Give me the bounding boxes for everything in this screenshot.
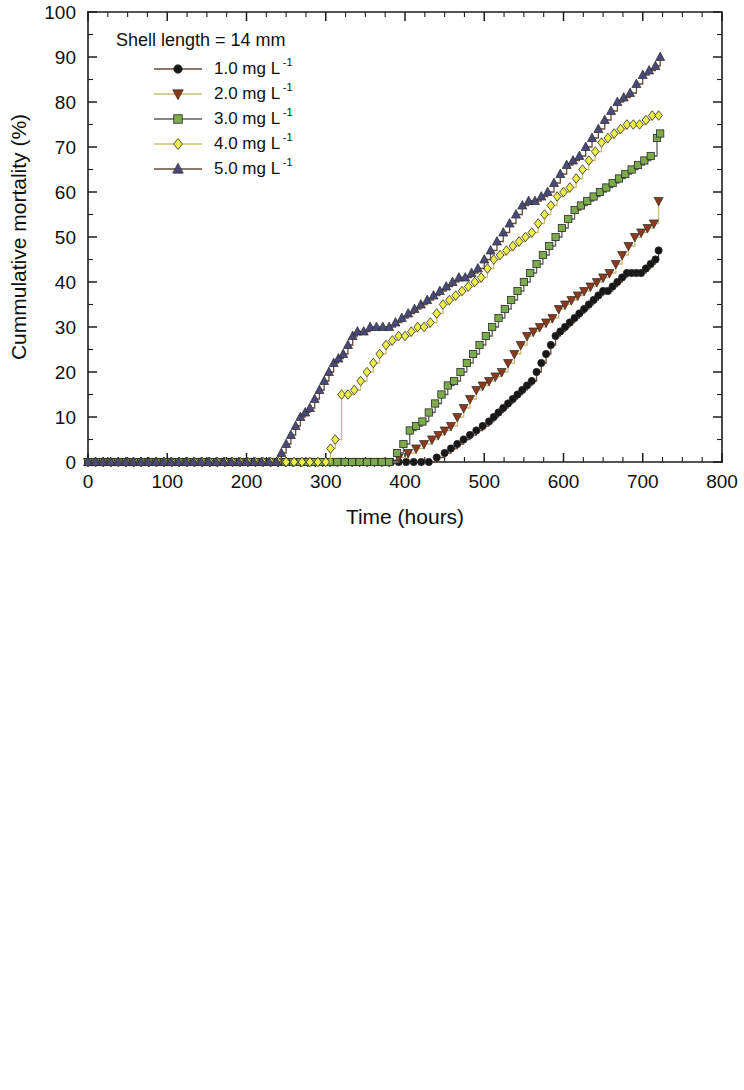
data-marker xyxy=(425,409,432,416)
data-marker xyxy=(558,224,565,231)
data-marker xyxy=(471,277,479,287)
data-marker xyxy=(344,390,352,400)
data-marker xyxy=(339,349,348,357)
data-marker xyxy=(386,458,393,465)
data-marker xyxy=(657,130,664,137)
y-tick-label: 10 xyxy=(55,407,76,428)
series-line xyxy=(88,116,659,463)
data-marker xyxy=(334,458,341,465)
legend-label-exponent: -1 xyxy=(283,56,293,68)
data-marker xyxy=(496,250,504,260)
data-marker xyxy=(371,458,378,465)
data-marker xyxy=(553,192,561,202)
data-marker xyxy=(560,187,568,197)
y-tick-label: 100 xyxy=(44,2,76,23)
data-marker xyxy=(607,106,616,114)
data-marker xyxy=(528,228,536,238)
legend-marker xyxy=(174,138,183,149)
x-tick-label: 800 xyxy=(706,471,738,492)
x-tick-label: 500 xyxy=(468,471,500,492)
legend-item-5[interactable]: 5.0 mg L-1 xyxy=(154,156,293,178)
data-marker xyxy=(591,147,599,157)
figure-container: 0102030405060708090100010020030040050060… xyxy=(0,0,744,1090)
data-marker xyxy=(581,142,590,150)
data-marker xyxy=(533,368,540,375)
data-marker xyxy=(389,336,397,346)
data-marker xyxy=(652,256,659,263)
data-marker xyxy=(431,400,438,407)
data-marker xyxy=(465,395,474,403)
data-marker xyxy=(286,430,295,438)
data-marker xyxy=(515,237,523,247)
data-marker xyxy=(647,152,654,159)
data-marker xyxy=(401,331,409,341)
data-marker xyxy=(632,79,641,87)
chart-panel-top: 0102030405060708090100010020030040050060… xyxy=(0,0,744,545)
data-marker xyxy=(549,178,558,186)
data-marker xyxy=(341,458,348,465)
x-tick-label: 0 xyxy=(83,471,94,492)
data-marker xyxy=(624,242,633,250)
data-marker xyxy=(547,201,555,211)
data-marker xyxy=(510,350,519,358)
data-marker xyxy=(543,187,552,195)
data-marker xyxy=(327,444,335,454)
data-marker xyxy=(579,165,587,175)
y-tick-label: 20 xyxy=(55,362,76,383)
legend-item-3[interactable]: 3.0 mg L-1 xyxy=(154,106,293,128)
series-5 xyxy=(83,52,664,465)
x-tick-label: 300 xyxy=(310,471,342,492)
chart-svg-top: 0102030405060708090100010020030040050060… xyxy=(0,0,744,545)
data-marker xyxy=(277,448,286,456)
data-marker xyxy=(465,282,473,292)
data-marker xyxy=(460,436,467,443)
series-1 xyxy=(84,247,662,466)
x-tick-label: 200 xyxy=(231,471,263,492)
data-marker xyxy=(408,327,416,337)
data-marker xyxy=(511,210,520,218)
legend-label-exponent: -1 xyxy=(283,106,293,118)
data-marker xyxy=(656,52,665,60)
data-marker xyxy=(636,120,644,130)
data-marker xyxy=(503,246,511,256)
data-marker xyxy=(556,169,565,177)
y-tick-label: 50 xyxy=(55,227,76,248)
data-marker xyxy=(611,260,620,268)
legend-marker xyxy=(174,65,183,74)
data-marker xyxy=(600,115,609,123)
data-marker xyxy=(439,300,447,310)
data-marker xyxy=(446,295,454,305)
data-marker xyxy=(458,286,466,296)
x-tick-label: 600 xyxy=(548,471,580,492)
data-marker xyxy=(539,251,546,258)
data-marker xyxy=(479,422,486,429)
legend-label: 3.0 mg L xyxy=(214,109,280,128)
data-marker xyxy=(642,115,650,125)
data-marker xyxy=(418,458,425,465)
legend-label-exponent: -1 xyxy=(283,156,293,168)
data-marker xyxy=(400,440,407,447)
data-marker xyxy=(376,349,384,359)
data-marker xyxy=(572,174,580,184)
legend-label-exponent: -1 xyxy=(283,131,293,143)
data-marker xyxy=(363,367,371,377)
data-marker xyxy=(363,458,370,465)
legend-item-1[interactable]: 1.0 mg L-1 xyxy=(154,56,293,78)
data-marker xyxy=(369,358,377,368)
data-marker xyxy=(343,340,352,348)
data-marker xyxy=(425,458,432,465)
legend-label: 2.0 mg L xyxy=(214,84,280,103)
data-marker xyxy=(393,449,400,456)
y-tick-label: 30 xyxy=(55,317,76,338)
panel-title: Shell length = 14 mm xyxy=(116,30,286,50)
data-marker xyxy=(463,359,470,366)
data-marker xyxy=(598,138,606,148)
legend-label: 5.0 mg L xyxy=(214,159,280,178)
legend-item-2[interactable]: 2.0 mg L-1 xyxy=(154,81,293,103)
data-marker xyxy=(486,246,495,254)
data-marker xyxy=(291,421,300,429)
data-marker xyxy=(349,458,356,465)
legend-item-4[interactable]: 4.0 mg L-1 xyxy=(154,131,293,153)
legend-marker xyxy=(173,163,184,173)
data-marker xyxy=(476,341,483,348)
